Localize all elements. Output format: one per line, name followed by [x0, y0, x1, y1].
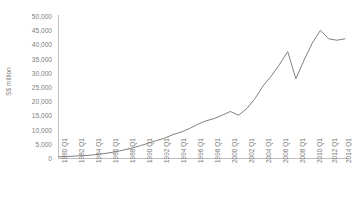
x-tick-label: 2002 Q1: [248, 138, 255, 163]
x-tick-label: 1986 Q1: [112, 138, 119, 163]
x-tick-label: 1992 Q1: [163, 138, 170, 163]
x-tick-label: 2014 Q1: [345, 138, 352, 163]
x-tick-label: 2000 Q1: [231, 138, 238, 163]
x-tick-label: 1988 Q1: [129, 138, 136, 163]
x-tick-label: 2004 Q1: [265, 138, 272, 163]
x-tick-label: 2010 Q1: [316, 138, 323, 163]
x-tick-label: 1996 Q1: [197, 138, 204, 163]
x-tick-label: 2012 Q1: [331, 138, 338, 163]
x-tick-label: 2006 Q1: [282, 138, 289, 163]
x-tick-label: 1982 Q1: [78, 138, 85, 163]
x-tick-label: 1980 Q1: [61, 138, 68, 163]
x-tick-label: 1990 Q1: [146, 138, 153, 163]
x-tick-label: 1998 Q1: [214, 138, 221, 163]
x-tick-label: 1984 Q1: [95, 138, 102, 163]
x-tick-label: 2008 Q1: [299, 138, 306, 163]
x-tick-label: 1994 Q1: [180, 138, 187, 163]
